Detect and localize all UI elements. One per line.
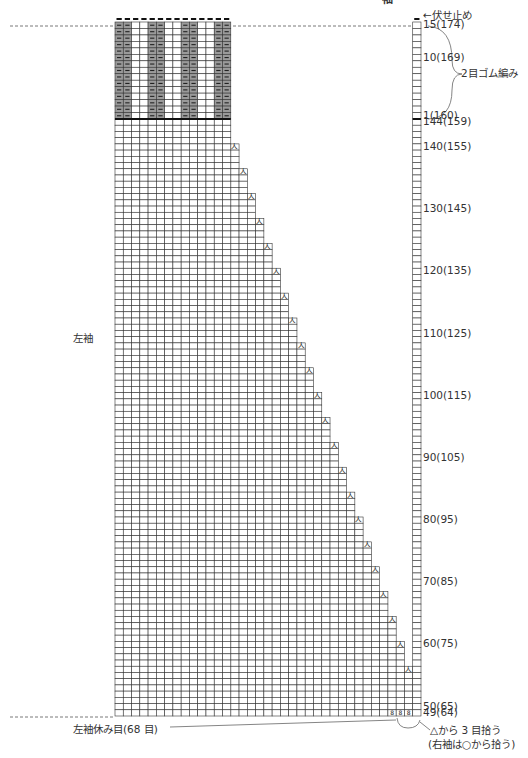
grid-cell: [231, 461, 239, 467]
grid-cell: [239, 424, 247, 430]
count-cell: [413, 666, 421, 672]
grid-cell: [363, 710, 371, 716]
grid-cell: [305, 399, 313, 405]
grid-cell: [239, 648, 247, 654]
grid-cell: [289, 492, 297, 498]
grid-cell: [206, 355, 214, 361]
grid-cell: [305, 567, 313, 573]
grid-cell: [264, 436, 272, 442]
grid-cell: [231, 505, 239, 511]
grid-cell: [322, 449, 330, 455]
grid-cell: [388, 660, 396, 666]
grid-cell: [247, 299, 255, 305]
grid-cell: [322, 554, 330, 560]
grid-cell: [297, 573, 305, 579]
grid-cell: [247, 561, 255, 567]
row-count-column: [413, 19, 421, 716]
grid-cell: [388, 691, 396, 697]
grid-cell: [181, 131, 189, 137]
grid-cell: [404, 685, 412, 691]
grid-cell: [231, 704, 239, 710]
grid-cell: [256, 617, 264, 623]
grid-cell: [123, 498, 131, 504]
grid-cell: [272, 368, 280, 374]
grid-cell: [264, 629, 272, 635]
grid-cell: [223, 163, 231, 169]
grid-cell: [330, 585, 338, 591]
grid-cell: [140, 262, 148, 268]
grid-cell: [338, 641, 346, 647]
grid-cell: [297, 380, 305, 386]
grid-cell: [347, 529, 355, 535]
grid-cell: [338, 542, 346, 548]
grid-cell: [239, 455, 247, 461]
grid-cell: [264, 579, 272, 585]
grid-cell: [156, 187, 164, 193]
grid-cell: [247, 380, 255, 386]
grid-cell: [313, 598, 321, 604]
knit-cell: [132, 35, 140, 41]
grid-cell: [123, 225, 131, 231]
grid-cell: [322, 592, 330, 598]
grid-cell: [338, 629, 346, 635]
grid-cell: [231, 349, 239, 355]
grid-cell: [165, 529, 173, 535]
grid-cell: [189, 225, 197, 231]
grid-cell: [156, 561, 164, 567]
grid-cell: [206, 691, 214, 697]
grid-cell: [239, 324, 247, 330]
decrease-symbol: 人: [389, 616, 396, 624]
count-cell: [413, 144, 421, 150]
grid-cell: [223, 604, 231, 610]
grid-cell: [305, 442, 313, 448]
grid-cell: [165, 268, 173, 274]
grid-cell: [214, 318, 222, 324]
grid-cell: [206, 511, 214, 517]
grid-cell: [148, 561, 156, 567]
grid-cell: [115, 666, 123, 672]
grid-cell: [214, 144, 222, 150]
grid-cell: [264, 536, 272, 542]
grid-cell: [123, 243, 131, 249]
count-cell: [413, 386, 421, 392]
grid-cell: [123, 287, 131, 293]
grid-cell: [231, 194, 239, 200]
grid-cell: [256, 492, 264, 498]
grid-cell: [206, 710, 214, 716]
grid-cell: [132, 243, 140, 249]
grid-cell: [313, 542, 321, 548]
grid-cell: [363, 617, 371, 623]
grid-cell: [206, 262, 214, 268]
grid-cell: [132, 660, 140, 666]
grid-cell: [115, 219, 123, 225]
grid-cell: [140, 536, 148, 542]
grid-cell: [239, 343, 247, 349]
grid-cell: [140, 181, 148, 187]
grid-cell: [256, 579, 264, 585]
grid-cell: [247, 567, 255, 573]
grid-cell: [280, 393, 288, 399]
grid-cell: [132, 635, 140, 641]
grid-cell: [247, 654, 255, 660]
grid-cell: [148, 225, 156, 231]
count-cell: [413, 635, 421, 641]
grid-cell: [297, 579, 305, 585]
grid-cell: [305, 617, 313, 623]
grid-cell: [173, 169, 181, 175]
grid-cell: [214, 424, 222, 430]
grid-cell: [148, 175, 156, 181]
grid-cell: [322, 710, 330, 716]
count-cell: [413, 585, 421, 591]
grid-cell: [148, 666, 156, 672]
grid-cell: [305, 561, 313, 567]
grid-cell: [313, 623, 321, 629]
grid-cell: [231, 710, 239, 716]
grid-cell: [330, 697, 338, 703]
grid-cell: [231, 231, 239, 237]
grid-cell: [363, 691, 371, 697]
grid-cell: [214, 250, 222, 256]
grid-cell: [123, 374, 131, 380]
grid-cell: [181, 194, 189, 200]
grid-cell: [148, 144, 156, 150]
grid-cell: [239, 312, 247, 318]
